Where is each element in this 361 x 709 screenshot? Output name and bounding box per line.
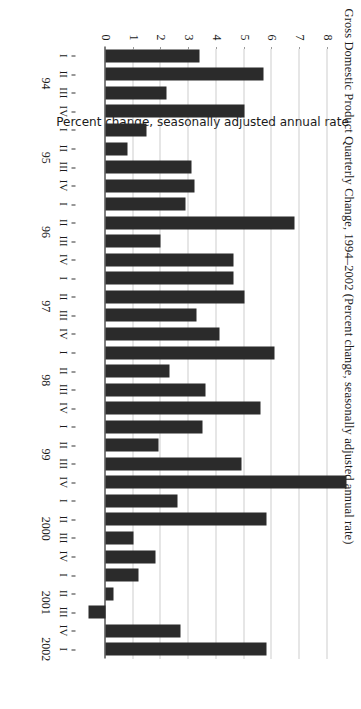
bar bbox=[105, 179, 194, 192]
year-label: 95 bbox=[39, 151, 51, 163]
bar bbox=[105, 67, 263, 80]
category-tick bbox=[71, 92, 75, 93]
year-label: 2002 bbox=[39, 637, 51, 661]
category-tick bbox=[71, 612, 75, 613]
quarter-label: I bbox=[57, 573, 68, 577]
quarter-label: II bbox=[57, 367, 68, 374]
bar bbox=[105, 216, 294, 229]
year-label: 97 bbox=[39, 300, 51, 312]
bar bbox=[105, 568, 138, 581]
category-tick bbox=[71, 315, 75, 316]
bar bbox=[105, 142, 127, 155]
quarter-label: II bbox=[57, 515, 68, 522]
quarter-label: I bbox=[57, 499, 68, 503]
bar bbox=[105, 420, 202, 433]
category-tick bbox=[71, 333, 75, 334]
bar bbox=[105, 253, 233, 266]
y-tick-label: 2 bbox=[154, 34, 166, 40]
bar bbox=[105, 587, 113, 600]
year-label: 96 bbox=[39, 225, 51, 237]
bar bbox=[105, 624, 180, 637]
bar bbox=[105, 494, 177, 507]
category-tick bbox=[71, 167, 75, 168]
y-tick-label: 7 bbox=[293, 34, 305, 40]
category-tick bbox=[71, 649, 75, 650]
y-tick-label: 6 bbox=[265, 34, 277, 40]
category-tick bbox=[71, 500, 75, 501]
category-tick bbox=[71, 296, 75, 297]
category-tick bbox=[71, 575, 75, 576]
category-tick bbox=[71, 241, 75, 242]
quarter-label: I bbox=[57, 53, 68, 57]
category-tick bbox=[71, 222, 75, 223]
quarter-label: I bbox=[57, 424, 68, 428]
quarter-label: IV bbox=[57, 253, 68, 265]
figure-canvas: Gross Domestic Product Quarterly Change,… bbox=[0, 0, 361, 709]
year-label: 2001 bbox=[39, 590, 51, 614]
y-tick-label: 4 bbox=[210, 34, 222, 40]
quarter-label: I bbox=[57, 647, 68, 651]
bar bbox=[105, 642, 266, 655]
category-tick bbox=[71, 630, 75, 631]
quarter-label: III bbox=[57, 532, 68, 543]
bar bbox=[88, 605, 105, 618]
quarter-label: II bbox=[57, 441, 68, 448]
quarter-label: II bbox=[57, 589, 68, 596]
category-tick bbox=[71, 111, 75, 112]
category-tick bbox=[71, 408, 75, 409]
bar bbox=[105, 104, 244, 117]
bar bbox=[105, 160, 191, 173]
category-tick bbox=[71, 259, 75, 260]
figure-title: Gross Domestic Product Quarterly Change,… bbox=[340, 8, 355, 544]
bar bbox=[105, 346, 274, 359]
bar bbox=[105, 364, 169, 377]
category-tick bbox=[71, 482, 75, 483]
category-tick bbox=[71, 519, 75, 520]
bar bbox=[105, 86, 166, 99]
quarter-label: I bbox=[57, 128, 68, 132]
bar bbox=[105, 49, 199, 62]
quarter-label: II bbox=[57, 70, 68, 77]
category-tick bbox=[71, 55, 75, 56]
bar bbox=[105, 271, 233, 284]
quarter-label: III bbox=[57, 384, 68, 395]
quarter-label: III bbox=[57, 606, 68, 617]
y-tick-label: 8 bbox=[321, 34, 333, 40]
category-tick bbox=[71, 148, 75, 149]
category-tick bbox=[71, 445, 75, 446]
category-axis: IIIIIIIVIIIIIIIVIIIIIIIVIIIIIIIVIIIIIIIV… bbox=[15, 46, 75, 658]
quarter-label: I bbox=[57, 202, 68, 206]
bar bbox=[105, 234, 161, 247]
category-tick bbox=[71, 426, 75, 427]
bar bbox=[105, 123, 147, 136]
category-tick bbox=[71, 352, 75, 353]
category-tick bbox=[71, 556, 75, 557]
bar bbox=[105, 197, 186, 210]
quarter-label: IV bbox=[57, 550, 68, 562]
category-tick bbox=[71, 463, 75, 464]
bar-series bbox=[77, 46, 327, 658]
quarter-label: III bbox=[57, 458, 68, 469]
category-tick bbox=[71, 389, 75, 390]
bar bbox=[105, 327, 219, 340]
category-tick bbox=[71, 74, 75, 75]
y-tick-label: 0 bbox=[99, 34, 111, 40]
bar bbox=[105, 475, 347, 488]
quarter-label: IV bbox=[57, 105, 68, 117]
quarter-label: I bbox=[57, 276, 68, 280]
bar bbox=[105, 512, 266, 525]
quarter-label: II bbox=[57, 219, 68, 226]
bar bbox=[105, 383, 205, 396]
quarter-label: III bbox=[57, 87, 68, 98]
quarter-label: IV bbox=[57, 624, 68, 636]
category-tick bbox=[71, 129, 75, 130]
category-tick bbox=[71, 185, 75, 186]
category-tick bbox=[71, 278, 75, 279]
y-tick-label: 1 bbox=[127, 34, 139, 40]
bar bbox=[105, 531, 133, 544]
bar bbox=[105, 308, 197, 321]
year-label: 99 bbox=[39, 448, 51, 460]
bar bbox=[105, 290, 244, 303]
category-tick bbox=[71, 537, 75, 538]
bar bbox=[105, 550, 155, 563]
